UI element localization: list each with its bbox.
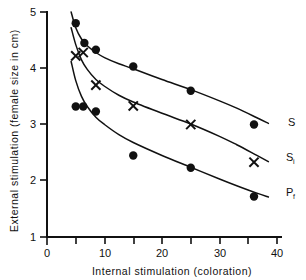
x-ticks: 0 10 20 30 40 — [44, 237, 283, 259]
series-layer — [71, 12, 268, 201]
x-tick-label-20: 20 — [156, 247, 168, 259]
data-point-S-0 — [72, 19, 80, 27]
data-point-S-1 — [80, 39, 88, 47]
y-ticks: 5 4 3 2 1 — [30, 6, 54, 243]
x-axis-title: Internal stimulation (coloration) — [92, 265, 252, 277]
data-point-Si-2 — [91, 81, 100, 90]
y-tick-label-1: 1 — [30, 231, 36, 243]
y-axis-title: External stimulation (female size in cm) — [8, 29, 20, 232]
x-tick-label-10: 10 — [99, 247, 111, 259]
chart-canvas: External stimulation (female size in cm)… — [0, 0, 306, 280]
series-Si — [71, 28, 268, 167]
data-point-S-3 — [129, 62, 137, 70]
y-tick-label-5: 5 — [30, 6, 36, 18]
data-point-Si-5 — [249, 158, 258, 167]
data-point-Pf-3 — [129, 151, 137, 159]
x-tick-label-30: 30 — [214, 247, 226, 259]
series-S — [71, 12, 268, 129]
series-label-S: S — [288, 116, 295, 128]
chart-figure: External stimulation (female size in cm)… — [0, 0, 306, 280]
y-tick-label-4: 4 — [30, 62, 36, 74]
series-labels: S S i P f — [286, 116, 295, 200]
data-point-S-5 — [250, 120, 258, 128]
data-point-Pf-2 — [92, 107, 100, 115]
data-point-Pf-4 — [187, 164, 195, 172]
y-tick-label-2: 2 — [30, 174, 36, 186]
series-sublabel-Si: i — [293, 158, 295, 165]
x-tick-label-0: 0 — [44, 247, 50, 259]
data-point-Pf-0 — [72, 102, 80, 110]
series-sublabel-Pf: f — [293, 193, 295, 200]
x-tick-label-40: 40 — [271, 247, 283, 259]
data-point-S-2 — [92, 45, 100, 53]
data-point-Pf-1 — [79, 102, 87, 110]
data-point-Pf-5 — [250, 192, 258, 200]
data-point-S-4 — [187, 87, 195, 95]
fit-curve-S — [71, 12, 268, 123]
fit-curve-Si — [71, 28, 268, 162]
y-tick-label-3: 3 — [30, 118, 36, 130]
